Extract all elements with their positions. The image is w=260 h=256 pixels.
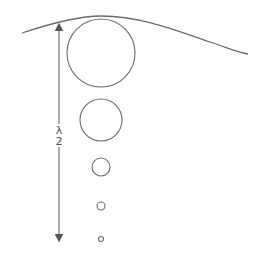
denominator-two-label: 2 bbox=[56, 135, 63, 148]
bubble-circle-5 bbox=[99, 237, 104, 242]
bubble-circle-3 bbox=[92, 158, 110, 176]
bubble-circle-4 bbox=[97, 202, 105, 210]
bubble-group bbox=[67, 19, 135, 242]
bubble-wave-diagram: λ 2 bbox=[0, 0, 260, 256]
bubble-circle-1 bbox=[67, 19, 135, 87]
half-wavelength-dimension-arrow: λ 2 bbox=[56, 27, 63, 238]
bubble-circle-2 bbox=[80, 99, 122, 141]
